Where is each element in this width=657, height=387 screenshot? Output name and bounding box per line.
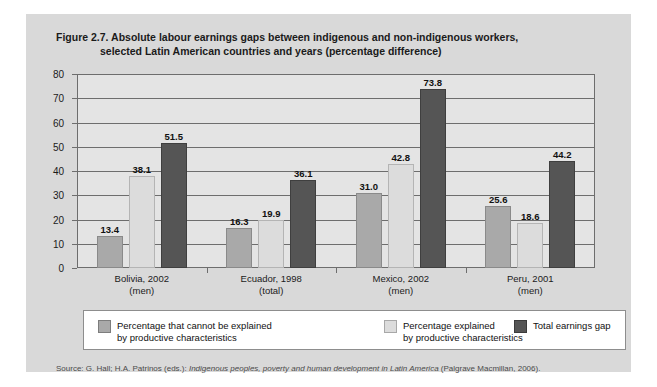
figure-title: Figure 2.7. Absolute labour earnings gap… bbox=[56, 30, 616, 58]
x-axis-category-sublabel: (men) bbox=[336, 285, 466, 297]
bar-group: 16.319.936.1 bbox=[207, 74, 337, 268]
y-axis-tick-label: 80 bbox=[18, 69, 64, 80]
bar[interactable]: 51.5 bbox=[161, 143, 187, 268]
source-note: Source: G. Hall; H.A. Patrinos (eds.): I… bbox=[56, 364, 646, 373]
bar[interactable]: 16.3 bbox=[226, 228, 252, 268]
y-axis-tick-label: 20 bbox=[18, 214, 64, 225]
legend-label-line-2: by productive characteristics bbox=[117, 332, 272, 344]
legend-item[interactable]: Percentage that cannot be explainedby pr… bbox=[98, 320, 272, 344]
bar[interactable]: 38.1 bbox=[129, 176, 155, 268]
bar[interactable]: 13.4 bbox=[97, 236, 123, 268]
legend-label: Total earnings gap bbox=[533, 320, 611, 332]
y-axis-tick-label: 30 bbox=[18, 190, 64, 201]
x-axis-category-name: Peru, 2001 bbox=[466, 273, 596, 285]
bar[interactable]: 25.6 bbox=[485, 206, 511, 268]
x-axis-category-sublabel: (total) bbox=[207, 285, 337, 297]
legend-label: Percentage explainedby productive charac… bbox=[403, 320, 523, 344]
x-axis-category-label: Ecuador, 1998(total) bbox=[207, 273, 337, 297]
x-axis-category-sublabel: (men) bbox=[466, 285, 596, 297]
legend-item[interactable]: Percentage explainedby productive charac… bbox=[384, 320, 523, 344]
y-axis-tick-label: 50 bbox=[18, 141, 64, 152]
bar-value-label: 38.1 bbox=[133, 164, 152, 175]
bar-value-label: 44.2 bbox=[553, 149, 572, 160]
x-axis-separator bbox=[336, 268, 337, 273]
bar-value-label: 36.1 bbox=[294, 168, 313, 179]
bar-value-label: 25.6 bbox=[489, 194, 508, 205]
bar[interactable]: 73.8 bbox=[420, 89, 446, 268]
bar-group: 13.438.151.5 bbox=[77, 74, 207, 268]
figure-panel: Figure 2.7. Absolute labour earnings gap… bbox=[26, 14, 631, 372]
x-axis-separator bbox=[207, 268, 208, 273]
x-axis: Bolivia, 2002(men)Ecuador, 1998(total)Me… bbox=[77, 268, 595, 302]
y-axis: 01020304050607080 bbox=[26, 74, 72, 268]
legend-label-line-1: Percentage explained bbox=[403, 320, 523, 332]
legend-color-swatch bbox=[514, 320, 527, 333]
legend-item[interactable]: Total earnings gap bbox=[514, 320, 611, 333]
legend-color-swatch bbox=[98, 320, 111, 333]
bar[interactable]: 18.6 bbox=[517, 223, 543, 268]
bar-group: 25.618.644.2 bbox=[466, 74, 596, 268]
bars-layer: 13.438.151.516.319.936.131.042.873.825.6… bbox=[77, 74, 595, 268]
source-prefix: Source: G. Hall; H.A. Patrinos (eds.): bbox=[56, 364, 189, 373]
bar-value-label: 42.8 bbox=[392, 152, 411, 163]
legend-label: Percentage that cannot be explainedby pr… bbox=[117, 320, 272, 344]
x-axis-category-name: Bolivia, 2002 bbox=[77, 273, 207, 285]
y-axis-tick-label: 70 bbox=[18, 93, 64, 104]
x-axis-category-label: Mexico, 2002(men) bbox=[336, 273, 466, 297]
x-axis-category-label: Peru, 2001(men) bbox=[466, 273, 596, 297]
y-axis-tick-label: 10 bbox=[18, 238, 64, 249]
figure-title-line-2: selected Latin American countries and ye… bbox=[100, 44, 616, 58]
bar-group: 31.042.873.8 bbox=[336, 74, 466, 268]
bar[interactable]: 31.0 bbox=[356, 193, 382, 268]
bar-value-label: 51.5 bbox=[165, 131, 184, 142]
bar[interactable]: 44.2 bbox=[549, 161, 575, 268]
chart-legend: Percentage that cannot be explainedby pr… bbox=[83, 310, 626, 350]
legend-label-line-1: Total earnings gap bbox=[533, 320, 611, 332]
source-title: Indigenous peoples, poverty and human de… bbox=[189, 364, 439, 373]
bar[interactable]: 42.8 bbox=[388, 164, 414, 268]
x-axis-category-sublabel: (men) bbox=[77, 285, 207, 297]
bar-value-label: 31.0 bbox=[360, 181, 379, 192]
y-axis-tick-label: 40 bbox=[18, 166, 64, 177]
bar[interactable]: 36.1 bbox=[290, 180, 316, 268]
y-axis-tick-label: 0 bbox=[18, 263, 64, 274]
bar-value-label: 16.3 bbox=[230, 216, 249, 227]
legend-label-line-1: Percentage that cannot be explained bbox=[117, 320, 272, 332]
bar-value-label: 19.9 bbox=[262, 208, 281, 219]
bar-value-label: 13.4 bbox=[101, 224, 120, 235]
legend-color-swatch bbox=[384, 320, 397, 333]
y-axis-tick-label: 60 bbox=[18, 117, 64, 128]
figure-title-line-1: Figure 2.7. Absolute labour earnings gap… bbox=[56, 30, 616, 44]
bar-value-label: 73.8 bbox=[424, 77, 443, 88]
source-suffix: (Palgrave Macmillan, 2006). bbox=[439, 364, 541, 373]
x-axis-category-name: Ecuador, 1998 bbox=[207, 273, 337, 285]
x-axis-category-name: Mexico, 2002 bbox=[336, 273, 466, 285]
bar[interactable]: 19.9 bbox=[258, 220, 284, 268]
x-axis-separator bbox=[466, 268, 467, 273]
legend-label-line-2: by productive characteristics bbox=[403, 332, 523, 344]
bar-value-label: 18.6 bbox=[521, 211, 540, 222]
x-axis-category-label: Bolivia, 2002(men) bbox=[77, 273, 207, 297]
